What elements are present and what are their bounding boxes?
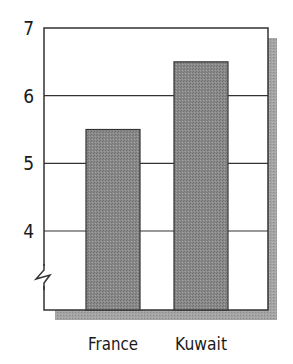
plot-area <box>44 28 268 310</box>
y-axis-ticks: 4567 <box>23 17 34 242</box>
y-tick-label: 4 <box>23 220 34 242</box>
bar-france <box>86 130 140 310</box>
y-tick-label: 5 <box>23 152 34 174</box>
bar-kuwait <box>174 62 228 310</box>
y-tick-label: 6 <box>23 85 34 107</box>
bar-chart: 4567 FranceKuwait <box>0 0 293 364</box>
x-category-label: Kuwait <box>175 334 227 354</box>
y-tick-label: 7 <box>23 17 34 39</box>
x-category-label: France <box>88 334 138 354</box>
x-axis-labels: FranceKuwait <box>88 334 227 354</box>
